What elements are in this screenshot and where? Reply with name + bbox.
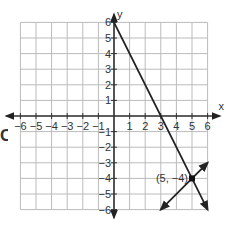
svg-text:−1: −1 [98,126,111,138]
svg-text:−6: −6 [14,120,27,132]
svg-text:y: y [117,8,123,20]
svg-text:x: x [219,100,225,112]
svg-text:5: 5 [189,120,195,132]
svg-text:−6: −6 [98,204,111,216]
axes [6,14,219,217]
svg-text:4: 4 [105,48,111,60]
plotted-line [161,163,208,210]
svg-text:6: 6 [205,120,211,132]
svg-text:4: 4 [173,120,179,132]
svg-text:1: 1 [127,120,133,132]
svg-text:5: 5 [105,32,111,44]
svg-text:−2: −2 [98,141,111,153]
svg-text:2: 2 [105,79,111,91]
svg-text:−5: −5 [98,188,111,200]
svg-text:6: 6 [105,16,111,28]
coordinate-plane: xy−6−5−4−3−2−1123456654321−1−2−3−4−5−6 (… [0,0,226,229]
svg-text:2: 2 [142,120,148,132]
svg-text:−3: −3 [98,157,111,169]
svg-text:−3: −3 [61,120,74,132]
svg-text:−4: −4 [98,172,111,184]
svg-text:−4: −4 [45,120,58,132]
svg-text:(5, −4): (5, −4) [156,172,188,184]
tick-labels: xy−6−5−4−3−2−1123456654321−1−2−3−4−5−6 [14,8,224,215]
svg-text:−5: −5 [30,120,43,132]
svg-text:1: 1 [105,94,111,106]
svg-text:−2: −2 [77,120,90,132]
svg-text:3: 3 [105,63,111,75]
